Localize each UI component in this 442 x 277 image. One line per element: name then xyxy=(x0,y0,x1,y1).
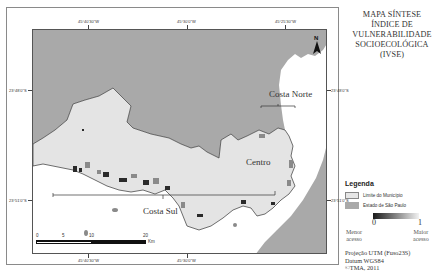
min-label-line-1: Menor xyxy=(346,229,362,236)
label-costa-norte: Costa Norte xyxy=(269,89,312,99)
map-title: MAPA SÍNTESE ÍNDICE DE VULNERABILIDADE S… xyxy=(344,10,440,60)
scale-unit: Km xyxy=(148,239,155,244)
gradient-max: 1 xyxy=(418,218,422,227)
max-label-line-2: acesso xyxy=(413,236,429,243)
label-centro: Centro xyxy=(246,157,271,167)
legend-item-state: Estado de São Paulo xyxy=(345,201,406,209)
scale-tick-10: 10 xyxy=(89,233,94,238)
tick xyxy=(187,254,188,258)
credit-projection: Projeção UTM (Fuso23S) xyxy=(345,249,410,257)
title-line-2: ÍNDICE DE xyxy=(344,20,440,30)
tick xyxy=(327,90,331,91)
scale-bar-segments xyxy=(36,240,146,244)
title-line-5: (IVSE) xyxy=(344,50,440,60)
min-label-line-2: acesso xyxy=(346,236,362,243)
map-credits: Projeção UTM (Fuso23S) Datum WGS84 ©TMA,… xyxy=(345,249,410,272)
lat-label-right-1: 23°48'0"S xyxy=(331,88,349,93)
lon-label-bottom-2: 45°30'0"W xyxy=(177,258,196,263)
legend-swatch-state xyxy=(345,202,359,209)
credit-copyright: ©TMA, 2011 xyxy=(345,264,410,272)
scale-tick-0: 0 xyxy=(36,233,39,238)
lon-label-bottom-1: 45°40'30"W xyxy=(78,258,99,263)
tick xyxy=(88,254,89,258)
north-arrow: N xyxy=(312,35,322,55)
legend-label-municipality: Limite do Município xyxy=(363,193,403,198)
north-arrow-icon xyxy=(312,41,322,55)
scale-tick-5: 5 xyxy=(62,233,65,238)
title-line-4: SOCIOECOLÓGICA xyxy=(344,40,440,50)
gradient-max-label: Maior acesso xyxy=(413,229,429,243)
legend-title: Legenda xyxy=(345,180,374,187)
scale-tick-20: 20 xyxy=(143,233,148,238)
tick xyxy=(327,200,331,201)
lat-label-left-2: 23°51'0"S xyxy=(9,198,27,203)
legend-swatch-municipality xyxy=(345,192,359,199)
max-label-line-1: Maior xyxy=(413,229,429,236)
lon-label-top-3: 45°25'30"W xyxy=(275,19,296,24)
legend-item-municipality: Limite do Município xyxy=(345,191,403,199)
lon-label-top-1: 45°40'30"W xyxy=(78,19,99,24)
gradient-min-label: Menor acesso xyxy=(346,229,362,243)
title-line-1: MAPA SÍNTESE xyxy=(344,10,440,20)
credit-datum: Datum WGS84 xyxy=(345,257,410,265)
lon-label-top-2: 45°30'0"W xyxy=(177,19,196,24)
map-canvas xyxy=(33,30,327,254)
label-costa-sul: Costa Sul xyxy=(143,206,178,216)
vulnerability-gradient xyxy=(373,213,419,219)
gradient-min: 0 xyxy=(372,218,376,227)
map-area[interactable]: N Costa Norte Centro Costa Sul 0 5 10 20… xyxy=(32,29,327,254)
scale-bar: 0 5 10 20 Km xyxy=(36,240,148,246)
title-line-3: VULNERABILIDADE xyxy=(344,30,440,40)
legend-label-state: Estado de São Paulo xyxy=(363,203,406,208)
lat-label-left-1: 23°48'0"S xyxy=(9,88,27,93)
